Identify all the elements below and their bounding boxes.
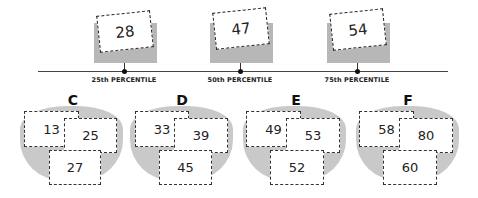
group-f-value-2: 80 xyxy=(418,128,435,143)
group-f-card-3: 60 xyxy=(383,150,437,185)
group-c-letter: C xyxy=(63,92,83,108)
percentile-75-label: 75th PERCENTILE xyxy=(307,76,407,84)
percentile-50-label: 50th PERCENTILE xyxy=(190,76,290,84)
percentile-25-value-card: 28 xyxy=(96,10,154,52)
percentile-50-dot xyxy=(238,69,243,74)
group-e-value-1: 49 xyxy=(265,122,282,137)
group-c-value-2: 25 xyxy=(82,128,99,143)
percentile-25-label: 25th PERCENTILE xyxy=(74,76,174,84)
group-e-card-2: 53 xyxy=(286,118,340,153)
group-e-letter: E xyxy=(286,92,306,108)
percentile-50-value: 47 xyxy=(231,19,252,39)
group-c-card-2: 25 xyxy=(64,118,117,153)
group-d-value-3: 45 xyxy=(177,160,194,175)
percentile-axis-line xyxy=(38,71,448,72)
group-c-value-1: 13 xyxy=(43,122,60,137)
group-f-card-2: 80 xyxy=(399,118,453,153)
group-d-card-2: 39 xyxy=(174,118,228,153)
percentile-50-value-card: 47 xyxy=(212,7,270,49)
group-f-value-3: 60 xyxy=(402,160,419,175)
percentile-25-dot xyxy=(122,69,127,74)
group-d-letter: D xyxy=(172,92,192,108)
group-c-card-3: 27 xyxy=(49,150,101,185)
group-e-value-3: 52 xyxy=(289,160,306,175)
percentile-75-dot xyxy=(355,69,360,74)
percentile-25-value: 28 xyxy=(115,22,136,42)
group-d-card-3: 45 xyxy=(159,150,212,185)
group-e-card-3: 52 xyxy=(270,150,324,185)
group-e-value-2: 53 xyxy=(305,128,322,143)
group-f-value-1: 58 xyxy=(378,122,395,137)
group-f-letter: F xyxy=(398,92,418,108)
group-d-value-2: 39 xyxy=(193,128,210,143)
percentile-75-value: 54 xyxy=(348,20,369,40)
percentile-75-value-card: 54 xyxy=(329,8,387,50)
group-c-value-3: 27 xyxy=(67,160,84,175)
group-d-value-1: 33 xyxy=(154,122,171,137)
